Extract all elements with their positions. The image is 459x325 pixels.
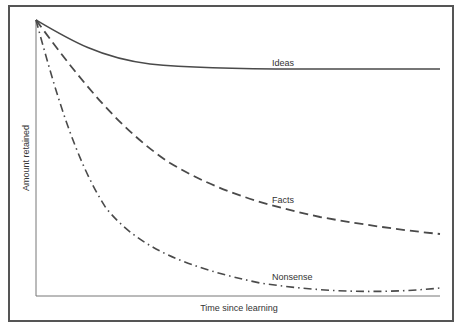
series-nonsense-line [36,20,440,291]
label-nonsense: Nonsense [272,272,313,282]
x-axis-title: Time since learning [200,303,278,313]
y-axis-title: Amount retained [21,125,31,191]
label-facts: Facts [272,195,295,205]
series-facts-line [36,20,440,234]
label-ideas: Ideas [272,58,295,68]
series-ideas-line [36,20,440,69]
retention-chart: Ideas Facts Nonsense Time since learning… [0,0,459,325]
